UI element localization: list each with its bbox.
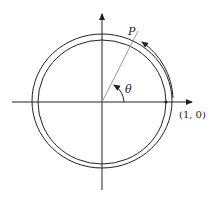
start-point-dot: [165, 101, 168, 104]
unit-circle-diagram: P θ (1, 0): [0, 0, 217, 198]
start-point-label: (1, 0): [179, 109, 206, 120]
point-label: P: [127, 25, 136, 38]
angle-label: θ: [125, 83, 132, 96]
angle-arc: [114, 85, 124, 102]
